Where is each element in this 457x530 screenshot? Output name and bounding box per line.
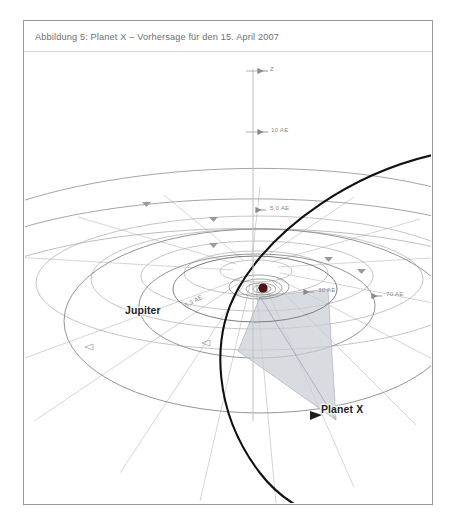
distance-label-10ae: 10 AE bbox=[271, 126, 289, 134]
grid-spokes bbox=[24, 187, 432, 504]
planetx-label: Planet X bbox=[321, 405, 363, 413]
figure-page: Abbildung 5: Planet X – Vorhersage für d… bbox=[0, 0, 457, 530]
distance-label-70ae: 70 AE bbox=[386, 290, 404, 298]
distance-label-30ae: 30 AE bbox=[318, 286, 336, 294]
distance-label-5-0ae: 5,0 AE bbox=[270, 204, 289, 212]
z-axis-label: Z bbox=[270, 65, 274, 73]
jupiter-label: Jupiter bbox=[125, 306, 161, 314]
orbit-diagram bbox=[24, 21, 432, 504]
figure-frame: Abbildung 5: Planet X – Vorhersage für d… bbox=[23, 20, 433, 505]
sun-marker bbox=[258, 283, 267, 292]
outer-ecliptic-arcs bbox=[24, 168, 432, 237]
